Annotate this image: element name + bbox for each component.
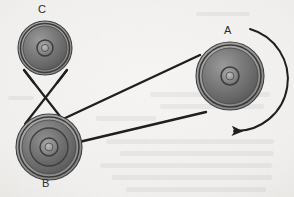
pulley-label-c: C <box>38 4 46 15</box>
pulley-c <box>18 21 72 75</box>
pulley-label-b: B <box>42 178 50 189</box>
diagram-svg <box>0 0 294 197</box>
pulley-diagram-canvas: A B C <box>0 0 294 197</box>
pulley-b-hub-core <box>45 143 53 151</box>
pulley-a <box>196 42 264 110</box>
pulley-label-a: A <box>224 25 232 36</box>
pulley-a-hub-core <box>226 72 234 80</box>
pulley-c-hub-core <box>41 44 48 51</box>
pulley-b <box>16 114 82 180</box>
